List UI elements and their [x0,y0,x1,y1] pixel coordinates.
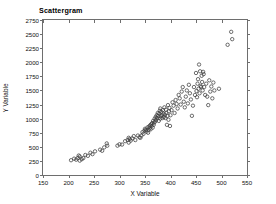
data-point [175,102,178,105]
x-tick-top [247,20,248,23]
x-tick-bottom [247,175,248,178]
data-point [208,79,211,82]
data-point [195,96,198,99]
y-tick-label: 250 [29,157,39,164]
plot-area [43,20,247,175]
data-point [180,90,183,93]
x-tick-top [43,20,44,23]
data-point [209,90,212,93]
data-point [213,89,216,92]
x-tick-label: 200 [63,179,73,186]
data-point [189,98,192,101]
x-tick-label: 450 [191,179,201,186]
x-tick-top [145,20,146,23]
y-tick-label: 1750 [25,73,39,80]
x-tick-top [196,20,197,23]
y-axis-title: Y Variable [2,84,9,113]
data-point [229,30,232,33]
y-tick-label: 2750 [25,17,39,24]
data-point [106,144,109,147]
data-point [184,95,187,98]
data-point [207,103,210,106]
y-tick-left [40,119,43,120]
x-tick-bottom [145,175,146,178]
data-point [194,71,197,74]
data-point [183,106,186,109]
y-tick-right [247,161,250,162]
y-tick-left [40,90,43,91]
data-point [201,89,204,92]
data-point [192,85,195,88]
data-point [197,63,200,66]
y-tick-right [247,48,250,49]
x-tick-label: 300 [114,179,124,186]
data-point [217,87,220,90]
y-tick-right [247,34,250,35]
y-tick-label: 2500 [25,31,39,38]
x-axis-title: X Variable [42,190,248,197]
y-tick-label: 1500 [25,87,39,94]
data-point [211,97,214,100]
y-tick-label: 0 [36,172,39,179]
data-point [212,81,215,84]
y-tick-right [247,133,250,134]
data-point [171,101,174,104]
data-point [134,138,137,141]
data-point [182,100,185,103]
data-point [186,102,189,105]
data-point [168,124,171,127]
data-point [178,97,181,100]
x-tick-bottom [43,175,44,178]
data-point [181,85,184,88]
plot-frame: 0250500750100012501500175020002250250027… [42,19,248,176]
data-point [190,114,193,117]
data-point [173,111,176,114]
x-tick-label: 550 [242,179,252,186]
y-tick-right [247,105,250,106]
x-tick-bottom [196,175,197,178]
y-tick-right [247,76,250,77]
x-tick-top [222,20,223,23]
y-tick-right [247,62,250,63]
data-point [167,118,170,121]
x-tick-top [94,20,95,23]
x-tick-label: 150 [38,179,48,186]
x-tick-bottom [69,175,70,178]
x-tick-bottom [171,175,172,178]
data-point [210,85,213,88]
x-tick-top [69,20,70,23]
y-tick-left [40,133,43,134]
data-point [200,80,203,83]
y-tick-left [40,62,43,63]
data-point [226,43,229,46]
x-tick-bottom [94,175,95,178]
x-tick-top [120,20,121,23]
data-point [205,82,208,85]
data-point [93,150,96,153]
data-point [196,82,199,85]
data-point [177,93,180,96]
y-tick-left [40,147,43,148]
y-tick-label: 750 [29,129,39,136]
y-tick-label: 2000 [25,59,39,66]
x-tick-bottom [120,175,121,178]
data-point [191,104,194,107]
data-point [179,103,182,106]
y-tick-label: 2250 [25,45,39,52]
data-point [231,37,234,40]
x-tick-label: 400 [165,179,175,186]
scatter-series [43,20,247,175]
x-tick-bottom [222,175,223,178]
data-point [185,89,188,92]
data-point [187,83,190,86]
data-point [198,92,201,95]
y-tick-label: 500 [29,143,39,150]
y-tick-right [247,90,250,91]
data-point [176,107,179,110]
chart-page: Scattergram 0250500750100012501500175020… [0,0,276,204]
chart-title: Scattergram [39,6,83,15]
x-tick-label: 250 [89,179,99,186]
y-tick-left [40,76,43,77]
y-tick-left [40,34,43,35]
y-tick-right [247,147,250,148]
